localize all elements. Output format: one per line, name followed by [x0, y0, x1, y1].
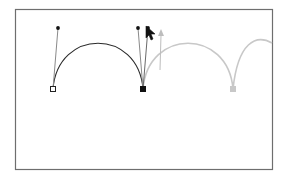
start-anchor[interactable] — [51, 87, 56, 92]
middle-anchor[interactable] — [141, 87, 146, 92]
preview-anchor — [230, 86, 236, 92]
pen-tool-diagram — [0, 0, 287, 180]
middle-handle-in-point[interactable] — [136, 26, 140, 30]
diagram-canvas — [0, 0, 287, 180]
start-handle-point[interactable] — [56, 26, 60, 30]
